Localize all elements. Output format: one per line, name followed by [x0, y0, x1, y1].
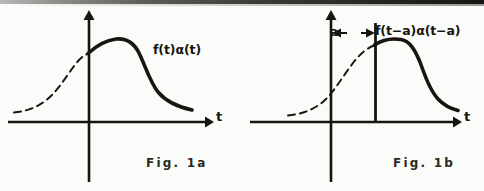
caption-fig-b: Fig. 1b	[393, 157, 455, 169]
x-axis-label-fig-b: t	[464, 110, 470, 123]
x-axis-fig-a	[8, 117, 214, 128]
curve-label-fig-a: f(t)α(t)	[153, 44, 201, 57]
solid-curve-fig-b	[375, 39, 459, 110]
shift-arrowhead-right-icon	[366, 29, 375, 38]
dashed-curve-fig-a	[14, 53, 89, 113]
figure-1b: a f(t−a)α(t−a) t Fig. 1b	[242, 0, 484, 191]
y-axis-arrowhead-icon	[84, 10, 95, 20]
y-axis-arrowhead-icon	[326, 10, 337, 20]
shift-dimension-line	[332, 25, 375, 41]
caption-fig-a: Fig. 1a	[146, 157, 207, 169]
x-axis-arrowhead-icon	[453, 117, 462, 128]
x-axis-label-fig-a: t	[216, 110, 222, 123]
curve-label-fig-b: f(t−a)α(t−a)	[375, 25, 460, 38]
figure-page: f(t)α(t) t Fig. 1a	[0, 0, 484, 191]
figure-1a: f(t)α(t) t Fig. 1a	[0, 0, 242, 191]
y-axis-fig-a	[84, 10, 95, 182]
x-axis-fig-b	[250, 117, 462, 128]
x-axis-arrowhead-icon	[205, 117, 214, 128]
shift-amount-label: a	[330, 26, 338, 38]
